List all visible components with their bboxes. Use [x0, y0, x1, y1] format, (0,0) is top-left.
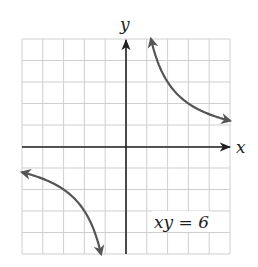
y-axis-label: y: [119, 14, 130, 34]
equation-label: xy = 6: [154, 212, 209, 232]
hyperbola-graph: y x xy = 6: [0, 0, 258, 267]
hyperbola-upper-branch: [151, 39, 230, 121]
x-axis-label: x: [236, 137, 246, 157]
hyperbola-lower-branch: [22, 172, 101, 254]
